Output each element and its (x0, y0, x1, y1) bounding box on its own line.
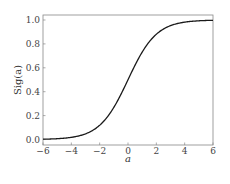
y-tick-label: 0.8 (26, 39, 41, 49)
y-tick-label: 0.0 (26, 135, 41, 145)
sigmoid-curve (43, 20, 213, 139)
y-tick-label: 1.0 (26, 15, 41, 25)
x-tick-label: −2 (93, 146, 106, 156)
x-tick-label: −6 (36, 146, 50, 156)
x-tick-label: 4 (182, 146, 188, 156)
y-axis-label: Sig(a) (12, 65, 23, 95)
sigmoid-chart: −6−4−20246 0.00.20.40.60.81.0 a Sig(a) (0, 0, 230, 184)
x-axis-label: a (125, 153, 131, 164)
y-axis-ticks: 0.00.20.40.60.81.0 (26, 15, 46, 145)
y-tick-label: 0.6 (26, 63, 41, 73)
x-tick-label: −4 (65, 146, 79, 156)
y-tick-label: 0.2 (26, 111, 40, 121)
x-tick-label: 6 (210, 146, 216, 156)
y-tick-label: 0.4 (26, 87, 41, 97)
x-tick-label: 2 (153, 146, 159, 156)
